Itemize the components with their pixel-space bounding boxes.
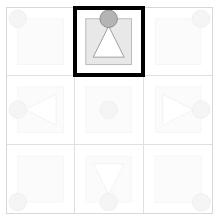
cell-top-right[interactable] [144,8,212,76]
square-shape [18,19,64,65]
cell-artwork [75,145,142,213]
cell-bottom-left[interactable] [7,145,75,213]
circle-marker [100,193,118,211]
cell-artwork [7,145,74,213]
matrix-grid [7,8,212,213]
circle-marker [100,101,118,119]
cell-top-left[interactable] [7,8,75,76]
cell-top-center[interactable] [75,8,143,76]
cell-middle-right[interactable] [144,76,212,144]
circle-marker [192,193,210,211]
cell-bottom-right[interactable] [144,145,212,213]
circle-marker [192,101,210,119]
cell-artwork [7,76,74,143]
circle-marker [100,10,118,28]
circle-marker [9,10,27,28]
matrix-frame [6,7,213,214]
cell-middle-left[interactable] [7,76,75,144]
cell-middle-center[interactable] [75,76,143,144]
cell-artwork [7,8,74,75]
square-shape [155,156,201,202]
cell-artwork [144,8,212,75]
square-shape [155,19,201,65]
circle-marker [9,101,27,119]
cell-artwork [144,145,212,213]
cell-artwork [75,76,142,143]
cell-artwork [75,8,142,75]
square-shape [18,156,64,202]
circle-marker [192,10,210,28]
circle-marker [9,193,27,211]
puzzle-root [0,0,220,224]
cell-artwork [144,76,212,143]
cell-bottom-center[interactable] [75,145,143,213]
